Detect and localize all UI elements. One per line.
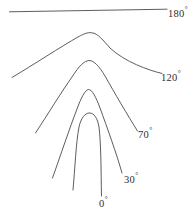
angle-label-180: 180° <box>168 6 188 19</box>
degree-symbol-icon: ° <box>149 126 152 135</box>
degree-symbol-icon: ° <box>185 5 188 14</box>
fold-curve-120 <box>12 33 162 78</box>
fold-curves-svg <box>0 0 195 220</box>
angle-label-0: 0° <box>99 196 108 209</box>
degree-symbol-icon: ° <box>105 195 108 204</box>
fold-curve-70 <box>36 61 138 134</box>
fold-curve-0 <box>73 113 102 196</box>
angle-label-70-value: 70 <box>138 129 149 140</box>
fold-diagram-figure: 180° 120° 70° 30° 0° <box>0 0 195 220</box>
angle-label-0-value: 0 <box>99 198 104 209</box>
angle-label-70: 70° <box>138 127 152 140</box>
degree-symbol-icon: ° <box>135 171 138 180</box>
angle-label-30-value: 30 <box>124 174 135 185</box>
angle-label-120-value: 120 <box>161 72 177 83</box>
fold-curve-30 <box>53 90 123 179</box>
fold-curve-180 <box>10 9 168 12</box>
angle-label-180-value: 180 <box>168 8 184 19</box>
degree-symbol-icon: ° <box>178 69 181 78</box>
angle-label-120: 120° <box>161 70 181 83</box>
angle-label-30: 30° <box>124 172 138 185</box>
